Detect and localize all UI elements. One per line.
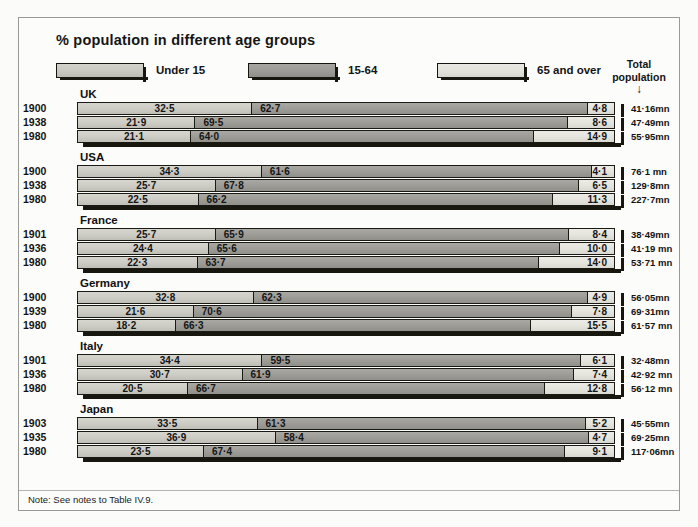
bar-value-label: 61·3 [258, 418, 286, 429]
bar-value-label: 21·9 [126, 117, 146, 128]
bar-value-label: 20·5 [122, 383, 142, 394]
footnote: Note: See notes to Table IV.9. [28, 494, 153, 505]
bar-segment-65-and-over: 4·1 [592, 166, 614, 177]
country-block: Italy190134·459·56·132·48mn193630·761·97… [19, 340, 679, 395]
bar-value-label: 25·7 [136, 229, 156, 240]
bar-segment-under-15: 24·4 [78, 243, 209, 254]
bar-value-label: 23·5 [130, 446, 150, 457]
bar-value-label: 7·4 [593, 369, 614, 380]
total-population-value: 45·55mn [631, 417, 697, 430]
bar-segment-15-64: 64·0 [191, 131, 534, 142]
legend-item-under-15: Under 15 [56, 59, 205, 81]
stacked-bar: 34·361·64·1 [77, 165, 615, 178]
bar-value-label: 66·3 [176, 320, 204, 331]
stacked-bar: 30·761·97·4 [77, 368, 615, 381]
bar-value-label: 70·6 [194, 306, 222, 317]
chart-row: 198020·566·712·856·12 mn [19, 382, 679, 395]
bar-segment-15-64: 61·6 [262, 166, 592, 177]
bar-segment-under-15: 21·6 [78, 306, 194, 317]
bar-group: 190032·562·74·841·16mn193821·969·58·647·… [19, 102, 679, 143]
bar-value-label: 61·6 [262, 166, 290, 177]
year-label: 1938 [19, 116, 77, 129]
total-population-line1: Total [627, 58, 651, 70]
chart-page: % population in different age groups Und… [0, 0, 698, 527]
bar-segment-under-15: 21·1 [78, 131, 191, 142]
year-label: 1980 [19, 130, 77, 143]
chart-row: 190032·562·74·841·16mn [19, 102, 679, 115]
bar-segment-15-64: 70·6 [194, 306, 572, 317]
bar-segment-under-15: 34·3 [78, 166, 262, 177]
year-label: 1936 [19, 242, 77, 255]
country-label: Germany [80, 277, 679, 291]
total-population-value: 61·57 mn [631, 319, 697, 332]
bar-segment-15-64: 63·7 [198, 257, 539, 268]
bar-value-label: 18·2 [116, 320, 136, 331]
total-population-value: 55·95mn [631, 130, 697, 143]
bar-value-label: 9·1 [593, 446, 614, 457]
year-label: 1980 [19, 382, 77, 395]
legend-swatch-15-64-icon [248, 63, 336, 78]
bar-value-label: 63·7 [198, 257, 226, 268]
country-label: France [80, 214, 679, 228]
stacked-bar: 36·958·44·7 [77, 431, 615, 444]
bar-group: 190333·561·35·245·55mn193536·958·44·769·… [19, 417, 679, 458]
stacked-bar: 32·862·34·9 [77, 291, 615, 304]
country-block: UK190032·562·74·841·16mn193821·969·58·64… [19, 88, 679, 143]
bar-segment-under-15: 23·5 [78, 446, 204, 457]
bar-value-label: 4·9 [593, 292, 614, 303]
bar-shadow [621, 447, 624, 460]
bar-shadow [621, 132, 624, 145]
total-population-value: 32·48mn [631, 354, 697, 367]
bar-value-label: 24·4 [133, 243, 153, 254]
bar-segment-15-64: 67·8 [216, 180, 579, 191]
bar-value-label: 69·5 [195, 117, 223, 128]
bar-value-label: 67·4 [204, 446, 232, 457]
bar-shadow [621, 321, 624, 334]
chart-row: 193825·767·86·5129·8mn [19, 179, 679, 192]
year-label: 1901 [19, 228, 77, 241]
bar-group: 190034·361·64·176·1 mn193825·767·86·5129… [19, 165, 679, 206]
total-population-value: 76·1 mn [631, 165, 697, 178]
bar-value-label: 4·8 [593, 103, 614, 114]
stacked-bar: 21·164·014·9 [77, 130, 615, 143]
footer-divider [19, 490, 679, 491]
bar-segment-65-and-over: 12·8 [545, 383, 614, 394]
country-block: Japan190333·561·35·245·55mn193536·958·44… [19, 403, 679, 458]
bar-value-label: 32·8 [155, 292, 175, 303]
bar-value-label: 8·4 [593, 229, 614, 240]
stacked-bar: 33·561·35·2 [77, 417, 615, 430]
bar-segment-15-64: 66·3 [176, 320, 531, 331]
country-block: Germany190032·862·34·956·05mn193921·670·… [19, 277, 679, 332]
bar-segment-under-15: 22·3 [78, 257, 198, 268]
bar-value-label: 6·5 [593, 180, 614, 191]
stacked-bar: 21·969·58·6 [77, 116, 615, 129]
bar-segment-15-64: 65·6 [209, 243, 561, 254]
year-label: 1900 [19, 291, 77, 304]
total-population-value: 117·06mn [631, 445, 697, 458]
bar-value-label: 11·3 [588, 194, 614, 205]
bar-segment-under-15: 30·7 [78, 369, 243, 380]
country-label: Japan [80, 403, 679, 417]
bar-segment-65-and-over: 4·9 [588, 292, 614, 303]
bar-value-label: 4·1 [593, 166, 614, 177]
bar-segment-65-and-over: 6·5 [579, 180, 614, 191]
bar-value-label: 8·6 [593, 117, 614, 128]
chart-row: 190134·459·56·132·48mn [19, 354, 679, 367]
bar-value-label: 15·5 [587, 320, 614, 331]
bar-segment-65-and-over: 9·1 [565, 446, 614, 457]
stacked-bar: 20·566·712·8 [77, 382, 615, 395]
stacked-bar: 25·765·98·4 [77, 228, 615, 241]
bar-shadow [621, 384, 624, 397]
total-population-value: 56·05mn [631, 291, 697, 304]
bar-value-label: 65·6 [209, 243, 237, 254]
bar-value-label: 14·9 [587, 131, 614, 142]
bar-value-label: 21·6 [125, 306, 145, 317]
chart-row: 193630·761·97·442·92 mn [19, 368, 679, 381]
bar-shadow [621, 195, 624, 208]
bar-value-label: 32·5 [155, 103, 175, 114]
legend-swatch-65-and-over-icon [437, 63, 525, 78]
bar-value-label: 33·5 [157, 418, 177, 429]
bar-value-label: 30·7 [150, 369, 170, 380]
chart-row: 190333·561·35·245·55mn [19, 417, 679, 430]
legend: Under 15 15-64 65 and over [56, 59, 616, 81]
